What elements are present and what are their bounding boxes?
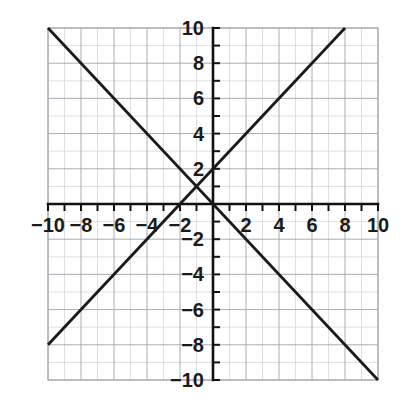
y-tick-label: 10: [182, 17, 204, 39]
x-tick-label: −6: [103, 214, 126, 236]
x-tick-label: 4: [273, 214, 285, 236]
figure-background: [0, 0, 411, 405]
y-tick-label: 2: [193, 158, 204, 180]
x-tick-label: −8: [70, 214, 93, 236]
y-tick-label: −10: [170, 369, 204, 391]
y-tick-label: 4: [193, 123, 205, 145]
x-tick-label: 2: [240, 214, 251, 236]
y-tick-label: −8: [181, 334, 204, 356]
y-tick-label: −2: [181, 228, 204, 250]
coordinate-graph-figure: −10−8−6−4−2246810108642−2−4−6−8−10: [0, 0, 411, 405]
x-tick-label: −10: [31, 214, 65, 236]
y-tick-label: 8: [193, 52, 204, 74]
x-tick-label: 10: [367, 214, 389, 236]
y-tick-label: 6: [193, 87, 204, 109]
x-tick-label: 6: [306, 214, 317, 236]
x-tick-label: −4: [136, 214, 160, 236]
graph-canvas: −10−8−6−4−2246810108642−2−4−6−8−10: [0, 0, 411, 405]
y-tick-label: −6: [181, 299, 204, 321]
x-tick-label: 8: [339, 214, 350, 236]
y-tick-label: −4: [181, 263, 205, 285]
